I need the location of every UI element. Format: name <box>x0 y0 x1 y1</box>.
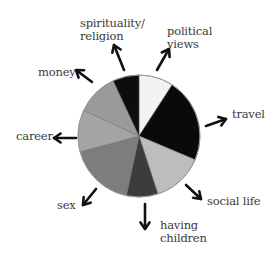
arrow-career-icon <box>54 134 76 143</box>
label-travel: travel <box>232 108 265 121</box>
label-line: travel <box>232 108 265 121</box>
label-line: social life <box>207 195 260 208</box>
label-career: career <box>16 130 53 143</box>
label-social-life: social life <box>207 195 260 208</box>
arrow-children-icon <box>141 204 150 229</box>
pie-slices <box>78 75 200 197</box>
arrow-spirituality-icon <box>112 45 124 70</box>
arrow-sex-icon <box>83 189 96 205</box>
arrow-political-icon <box>157 49 170 70</box>
arrow-money-icon <box>76 70 92 82</box>
arrow-social-icon <box>186 185 201 199</box>
label-political-views: political views <box>167 25 212 51</box>
label-line: religion <box>80 30 145 43</box>
label-line: children <box>160 232 207 245</box>
label-line: career <box>16 130 53 143</box>
label-line: views <box>167 38 212 51</box>
label-having-children: having children <box>160 219 207 245</box>
label-sex: sex <box>57 199 76 212</box>
arrow-travel-icon <box>206 117 226 126</box>
label-line: sex <box>57 199 76 212</box>
label-money: money <box>38 66 76 79</box>
label-spirituality-religion: spirituality/ religion <box>80 17 145 43</box>
label-line: money <box>38 66 76 79</box>
